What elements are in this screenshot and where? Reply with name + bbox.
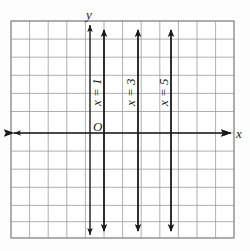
origin-label: O xyxy=(93,119,103,134)
y-axis-label: y xyxy=(84,7,92,22)
graph-svg: x = 1 x = 3 x = 5 O y x xyxy=(0,0,250,251)
label-x-equals-5: x = 5 xyxy=(156,78,171,107)
label-x-equals-1: x = 1 xyxy=(89,78,104,107)
x-axis-label: x xyxy=(235,126,242,141)
label-x-equals-3: x = 3 xyxy=(123,78,138,107)
coordinate-plane-figure: x = 1 x = 3 x = 5 O y x xyxy=(0,0,250,251)
